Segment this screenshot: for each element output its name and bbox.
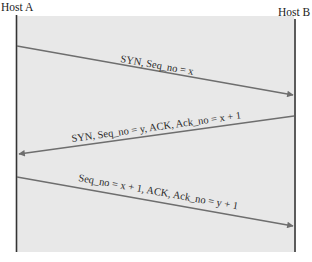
host-b-label: Host B	[278, 6, 311, 18]
host-a-label: Host A	[1, 1, 34, 13]
timeline-panel	[17, 16, 294, 252]
handshake-diagram: Host A Host B SYN, Seq_no = x SYN, Seq_n…	[0, 0, 312, 262]
